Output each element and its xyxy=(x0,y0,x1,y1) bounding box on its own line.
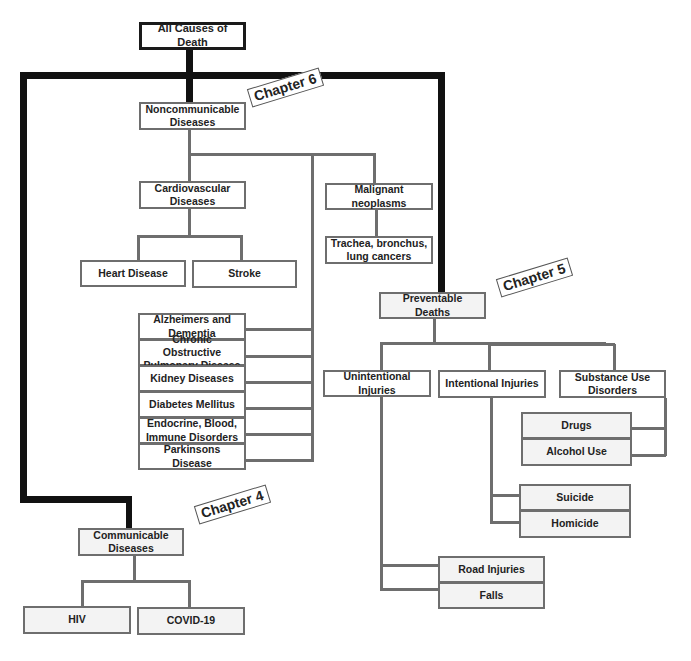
trunk-communicable-down xyxy=(126,496,132,528)
node-hiv[interactable]: HIV xyxy=(23,606,131,634)
connector xyxy=(632,427,666,430)
node-communicable[interactable]: Communicable Diseases xyxy=(78,528,184,556)
connector xyxy=(488,342,491,372)
connector xyxy=(490,398,493,523)
connector xyxy=(240,235,243,261)
connector xyxy=(488,343,615,346)
connector xyxy=(375,210,378,237)
node-noncommunicable[interactable]: Noncommunicable Diseases xyxy=(139,102,246,130)
trunk-left-bottom xyxy=(20,496,132,503)
node-parkinsons[interactable]: Parkinsons Disease xyxy=(138,443,246,470)
node-heart-disease[interactable]: Heart Disease xyxy=(80,260,186,287)
connector xyxy=(380,564,440,567)
connector xyxy=(632,454,666,457)
trunk-right-down xyxy=(438,72,445,293)
chapter-4-label: Chapter 4 xyxy=(194,485,271,525)
node-diabetes[interactable]: Diabetes Mellitus xyxy=(138,391,246,418)
connector xyxy=(133,556,136,582)
connector xyxy=(246,381,312,384)
connector xyxy=(137,235,140,261)
node-substance-use[interactable]: Substance Use Disorders xyxy=(559,370,666,398)
connector xyxy=(246,459,314,462)
node-endocrine[interactable]: Endocrine, Blood, Immune Disorders xyxy=(138,417,246,444)
connector xyxy=(380,588,440,591)
node-cardiovascular[interactable]: Cardiovascular Diseases xyxy=(139,181,246,209)
node-malignant-neoplasms[interactable]: Malignant neoplasms xyxy=(325,183,433,210)
connector xyxy=(613,344,616,372)
connector xyxy=(380,397,383,589)
connector xyxy=(311,153,314,461)
connector xyxy=(246,355,312,358)
node-unintentional-injuries[interactable]: Unintentional Injuries xyxy=(323,370,431,397)
connector xyxy=(490,521,521,524)
node-preventable-deaths[interactable]: Preventable Deaths xyxy=(379,292,486,319)
connector xyxy=(373,153,376,183)
node-all-causes[interactable]: All Causes of Death xyxy=(139,22,246,50)
connector xyxy=(137,235,242,238)
connector xyxy=(188,130,191,155)
node-suicide[interactable]: Suicide xyxy=(519,484,631,511)
node-kidney[interactable]: Kidney Diseases xyxy=(138,365,246,392)
node-alcohol-use[interactable]: Alcohol Use xyxy=(521,438,632,466)
node-lung-cancers[interactable]: Trachea, bronchus, lung cancers xyxy=(325,236,433,264)
connector xyxy=(246,407,312,410)
connector xyxy=(81,580,84,607)
connector xyxy=(380,342,383,372)
node-stroke[interactable]: Stroke xyxy=(192,260,297,288)
node-falls[interactable]: Falls xyxy=(438,582,545,609)
node-drugs[interactable]: Drugs xyxy=(521,412,632,439)
connector xyxy=(188,209,191,237)
connector xyxy=(246,328,312,331)
connector xyxy=(433,319,436,344)
trunk-left-down xyxy=(20,72,27,502)
node-homicide[interactable]: Homicide xyxy=(519,510,631,538)
node-road-injuries[interactable]: Road Injuries xyxy=(438,556,545,583)
connector xyxy=(246,433,312,436)
connector xyxy=(490,494,521,497)
connector xyxy=(188,580,191,607)
chapter-5-label: Chapter 5 xyxy=(496,258,573,298)
connector xyxy=(188,153,191,183)
trunk-horizontal xyxy=(20,72,445,79)
connector xyxy=(81,580,190,583)
node-copd[interactable]: Chronic Obstructive Pulmonary Disease xyxy=(138,339,246,366)
node-intentional-injuries[interactable]: Intentional Injuries xyxy=(438,370,546,398)
node-covid19[interactable]: COVID-19 xyxy=(137,607,245,635)
connector xyxy=(188,153,376,156)
